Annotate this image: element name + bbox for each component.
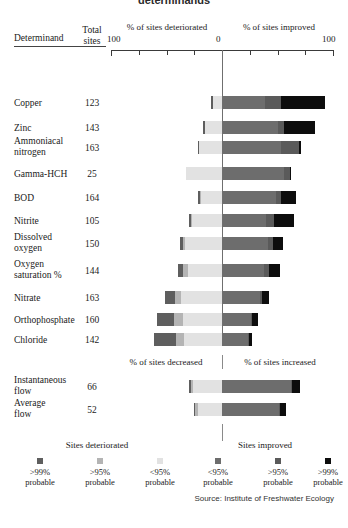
row-bar	[0, 313, 348, 326]
zero-line	[222, 50, 223, 338]
bar-segment-imp-99	[249, 333, 252, 346]
bar-segment-det-95	[183, 237, 185, 250]
bar-segment-det-99	[165, 291, 175, 304]
bar-segment-det-lt95	[185, 237, 222, 250]
axis-tick	[194, 50, 195, 55]
legend-label-probable: probable	[72, 477, 128, 487]
row-bar	[0, 264, 348, 277]
legend-item[interactable]: >95%probable	[72, 458, 128, 487]
legend-label-threshold: >99%	[300, 467, 348, 477]
axis-tick	[111, 50, 112, 56]
bar-segment-imp-lt95	[222, 121, 278, 134]
bar-segment-imp-lt95	[222, 380, 291, 393]
bar-segment-det-lt95	[186, 167, 222, 180]
chart-row: Orthophosphate160	[0, 310, 348, 330]
bar-segment-det-95	[191, 214, 192, 227]
legend-label-threshold: <95%	[190, 467, 246, 477]
bar-segment-imp-lt95	[222, 214, 266, 227]
bar-segment-imp-lt95	[222, 264, 264, 277]
legend-label-probable: probable	[300, 477, 348, 487]
row-bar	[0, 167, 348, 180]
legend-label-threshold: >95%	[72, 467, 128, 477]
bar-segment-imp-99	[273, 237, 283, 250]
bar-segment-det-95	[191, 380, 193, 393]
bar-segment-det-99	[198, 191, 200, 204]
chart-row: Gamma-HCH25	[0, 164, 348, 184]
bar-segment-imp-95	[281, 141, 299, 154]
bar-segment-imp-lt95	[222, 313, 251, 326]
bar-segment-imp-lt95	[222, 191, 276, 204]
axis-header-deteriorated: % of sites deteriorated	[112, 22, 222, 32]
legend-label-probable: probable	[250, 477, 306, 487]
bar-segment-det-95	[200, 191, 201, 204]
bar-segment-imp-lt95	[222, 237, 268, 250]
bar-segment-imp-95	[265, 96, 281, 109]
flow-header-decreased: % of sites decreased	[112, 357, 220, 367]
total-sites-header-rule	[77, 46, 106, 47]
bar-segment-det-lt95	[198, 403, 222, 416]
legend-label-probable: probable	[132, 477, 188, 487]
column-header-total-sites: Total sites	[77, 25, 107, 46]
bar-segment-det-99	[189, 214, 191, 227]
bar-segment-imp-lt95	[222, 96, 265, 109]
row-bar	[0, 214, 348, 227]
chart-row: Nitrite105	[0, 211, 348, 231]
determinand-header-rule	[14, 46, 82, 47]
legend-item[interactable]: >99%probable	[12, 458, 68, 487]
flow-divider	[222, 355, 223, 369]
legend-label-probable: probable	[190, 477, 246, 487]
bar-segment-imp-99	[274, 214, 294, 227]
axis-tick	[139, 50, 140, 55]
bar-segment-det-99	[178, 264, 184, 277]
axis-tick	[305, 50, 306, 55]
zero-line-tail	[222, 424, 223, 441]
row-bar	[0, 121, 348, 134]
chart-row: Zinc143	[0, 118, 348, 138]
bar-segment-det-99	[211, 96, 213, 109]
legend-swatch-icon	[157, 458, 163, 464]
legend-group-deteriorated: Sites deteriorated	[22, 440, 172, 450]
axis-tick	[250, 50, 251, 55]
chart-row: Nitrate163	[0, 288, 348, 308]
axis-tick	[278, 50, 279, 55]
bar-segment-imp-lt95	[222, 167, 284, 180]
bar-segment-det-lt95	[201, 191, 222, 204]
row-bar	[0, 96, 348, 109]
bar-segment-det-99	[189, 380, 191, 393]
row-bar	[0, 403, 348, 416]
legend-label-threshold: <95%	[132, 467, 188, 477]
bar-segment-det-lt95	[183, 313, 222, 326]
legend-item[interactable]: <95%probable	[132, 458, 188, 487]
axis-tick-label-right-100: 100	[322, 34, 336, 44]
bar-segment-det-95	[195, 403, 197, 416]
bar-segment-det-99	[198, 141, 199, 154]
bar-segment-det-95	[175, 291, 181, 304]
bar-segment-det-lt95	[181, 291, 222, 304]
bar-segment-det-lt95	[213, 96, 222, 109]
legend-item[interactable]: >99%probable	[300, 458, 348, 487]
flow-header-increased: % of sites increased	[226, 357, 334, 367]
legend-label-threshold: >99%	[12, 467, 68, 477]
bar-segment-imp-99	[292, 380, 300, 393]
bar-segment-imp-99	[290, 167, 291, 180]
legend-swatch-icon	[97, 458, 103, 464]
bar-segment-det-lt95	[192, 214, 222, 227]
row-bar	[0, 237, 348, 250]
bar-segment-det-99	[203, 121, 205, 134]
chart-row: Copper123	[0, 93, 348, 113]
bar-segment-imp-lt95	[222, 403, 279, 416]
legend-item[interactable]: <95%probable	[190, 458, 246, 487]
legend-swatch-icon	[325, 458, 331, 464]
row-bar	[0, 141, 348, 154]
bar-segment-imp-99	[281, 191, 297, 204]
legend-item[interactable]: >95%probable	[250, 458, 306, 487]
bar-segment-imp-95	[278, 121, 285, 134]
chart-title: determinands	[0, 0, 348, 6]
legend-label-probable: probable	[12, 477, 68, 487]
bar-segment-det-99	[154, 333, 176, 346]
total-sites-line1: Total	[77, 25, 107, 36]
bar-segment-det-lt95	[205, 121, 222, 134]
source-attribution: Source: Institute of Freshwater Ecology	[0, 494, 334, 503]
bar-segment-imp-99	[280, 403, 287, 416]
bar-segment-imp-lt95	[222, 333, 248, 346]
